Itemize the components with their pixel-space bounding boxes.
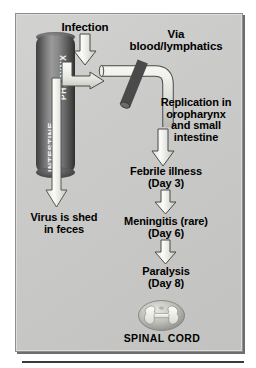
bottom-divider (22, 361, 244, 363)
meningitis-to-paralysis-arrow (154, 240, 177, 265)
diagram-root: Infection PHARYNX INTESTINE (0, 0, 256, 368)
label-meningitis: Meningitis (rare) (Day 6) (104, 216, 228, 239)
shedding-arrow (46, 78, 68, 208)
label-virus-shed: Virus is shed in feces (12, 212, 116, 235)
replication-arrow (151, 129, 175, 167)
label-paralysis: Paralysis (Day 8) (112, 266, 220, 289)
label-via-blood-lymphatics: Via blood/lymphatics (110, 28, 242, 52)
spinal-cord-icon (138, 300, 185, 331)
label-spinal-cord: SPINAL CORD (110, 333, 214, 344)
label-febrile-illness: Febrile illness (Day 3) (112, 166, 220, 189)
febrile-to-meningitis-arrow (154, 190, 177, 215)
